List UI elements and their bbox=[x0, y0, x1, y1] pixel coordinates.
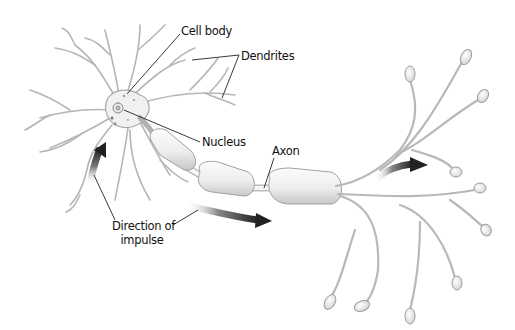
axon-terminals bbox=[330, 62, 482, 310]
leader-direction-up bbox=[94, 175, 115, 220]
impulse-arrow-up-icon bbox=[90, 142, 106, 185]
label-direction-line1: Direction of bbox=[112, 219, 172, 233]
terminal-bulbs bbox=[322, 48, 494, 324]
nucleus bbox=[113, 103, 123, 113]
impulse-arrow-axon-icon bbox=[185, 205, 272, 228]
label-dendrites: Dendrites bbox=[241, 49, 294, 63]
label-nucleus: Nucleus bbox=[202, 135, 246, 149]
label-cell-body: Cell body bbox=[181, 24, 232, 38]
label-axon: Axon bbox=[272, 144, 299, 158]
label-direction-of-impulse: Direction of impulse bbox=[112, 219, 172, 247]
leader-direction-right bbox=[173, 210, 198, 225]
neuron-diagram: Cell body Dendrites Nucleus Axon Directi… bbox=[0, 0, 515, 330]
label-direction-line2: impulse bbox=[112, 233, 172, 247]
